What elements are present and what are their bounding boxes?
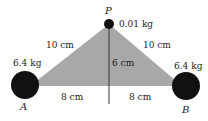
- distance-pb-label: 10 cm: [143, 40, 171, 50]
- distance-pa-label: 10 cm: [46, 40, 74, 50]
- mass-p-value: 0.01 kg: [119, 19, 153, 29]
- mass-a-sphere: [11, 71, 39, 99]
- base-left-label: 8 cm: [61, 92, 84, 102]
- height-label: 6 cm: [112, 58, 135, 68]
- point-p-label: P: [104, 5, 112, 16]
- base-right-label: 8 cm: [129, 92, 152, 102]
- point-b-label: B: [181, 104, 189, 115]
- mass-b-value: 6.4 kg: [174, 61, 203, 71]
- mass-p-sphere: [104, 19, 114, 29]
- mass-b-sphere: [172, 72, 200, 100]
- mass-a-value: 6.4 kg: [13, 58, 42, 68]
- gravitation-diagram: P 0.01 kg 6.4 kg A 6.4 kg B 10 cm 10 cm …: [0, 0, 208, 121]
- triangle-region: [30, 24, 182, 86]
- point-a-label: A: [19, 101, 27, 112]
